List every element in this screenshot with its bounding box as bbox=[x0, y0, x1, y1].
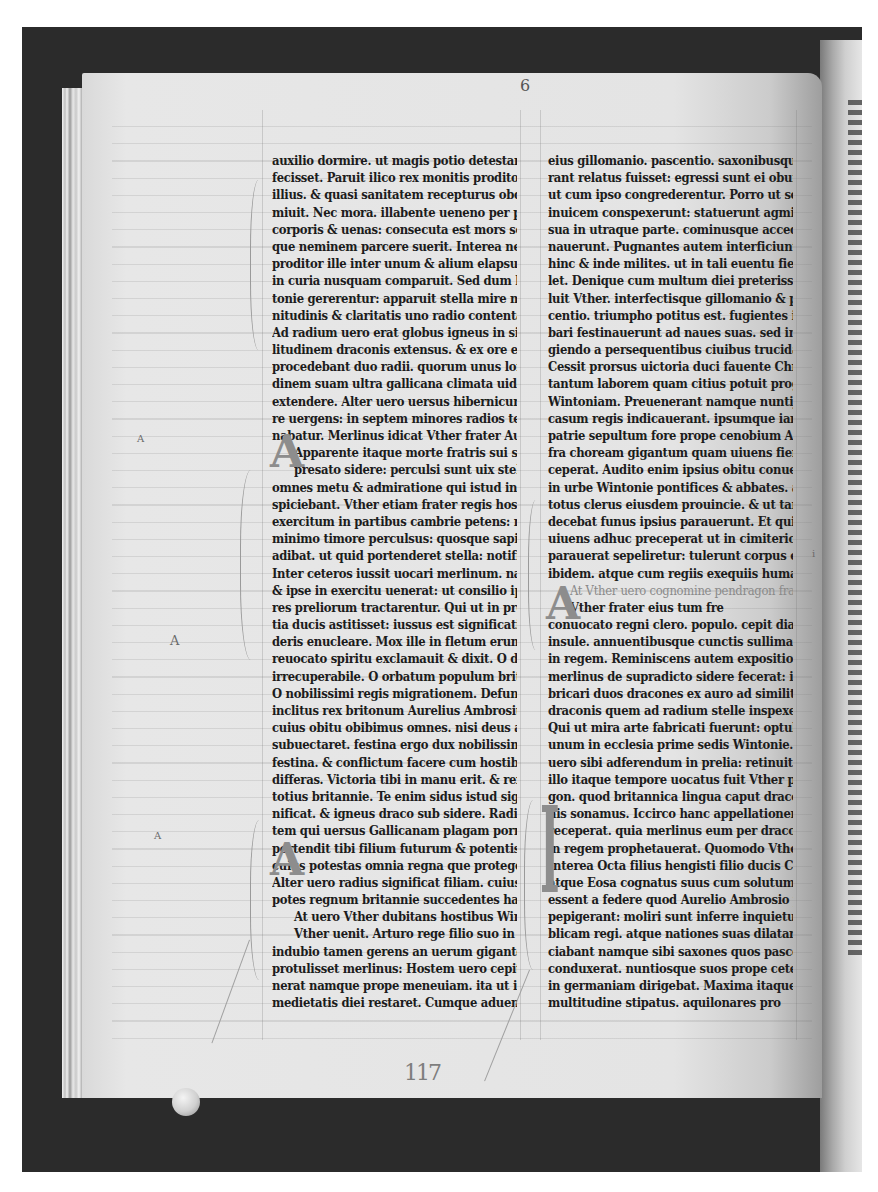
margin-note: i bbox=[812, 548, 815, 559]
decorated-initial-a: A bbox=[270, 430, 304, 474]
right-text-column: eius gillomanio. pascentio. saxonibusque… bbox=[548, 152, 793, 1011]
pen-flourish bbox=[250, 820, 273, 980]
decorated-initial-a: A bbox=[546, 582, 580, 626]
pen-flourish bbox=[528, 500, 547, 650]
ruling-vertical-right bbox=[796, 110, 797, 1040]
pencil-foliation: 117 bbox=[404, 1060, 440, 1085]
weight-bead bbox=[172, 1088, 200, 1116]
pen-flourish bbox=[240, 470, 267, 660]
pen-flourish bbox=[250, 180, 271, 350]
left-text-column: auxilio dormire. ut magis potio detestan… bbox=[272, 152, 517, 1011]
page-edges-stack bbox=[62, 88, 84, 1098]
ruling-vertical-mid-left bbox=[520, 110, 521, 1040]
margin-note: A bbox=[137, 433, 144, 444]
folio-mark: 6 bbox=[520, 76, 530, 95]
margin-note: A bbox=[154, 830, 161, 841]
facing-page-text bbox=[848, 100, 862, 960]
text-line: medietatis diei restaret. Cumque aduentu… bbox=[272, 993, 517, 1013]
decorated-initial-a: A bbox=[270, 838, 304, 882]
text-line: multitudine stipatus. aquilonares pro bbox=[548, 993, 793, 1013]
margin-note: A bbox=[170, 633, 179, 648]
pen-flourish bbox=[524, 800, 547, 970]
